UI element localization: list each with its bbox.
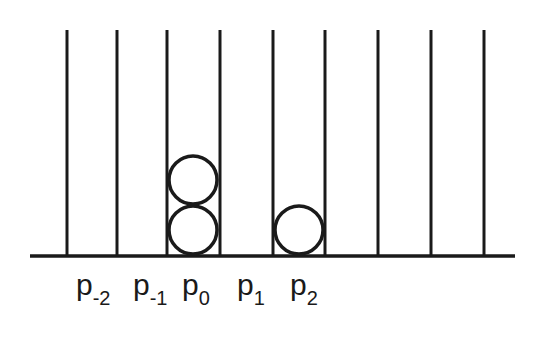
bin-label: p-2 bbox=[76, 268, 110, 309]
bins-diagram: p-2p-1p0p1p2 bbox=[0, 0, 541, 338]
bin-label: p2 bbox=[290, 268, 318, 309]
ball-p0 bbox=[169, 156, 217, 204]
bin-labels: p-2p-1p0p1p2 bbox=[76, 268, 318, 309]
ball-p0 bbox=[169, 206, 217, 254]
bin-label: p-1 bbox=[133, 268, 167, 309]
ball-p2 bbox=[275, 206, 323, 254]
bin-label: p0 bbox=[182, 268, 210, 309]
balls bbox=[169, 156, 323, 254]
bin-label: p1 bbox=[237, 268, 265, 309]
